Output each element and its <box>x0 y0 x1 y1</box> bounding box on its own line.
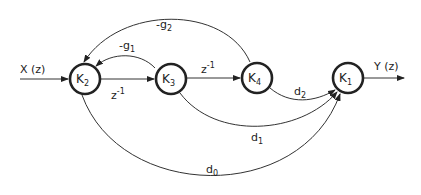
edge-k3-k4: z-1 <box>187 61 240 78</box>
output-label: Y (z) <box>373 60 399 73</box>
output-edge: Y (z) <box>364 60 404 78</box>
edge-k4-k1: d2 <box>270 85 335 100</box>
node-k1: K1 <box>333 63 363 93</box>
node-k4: K4 <box>242 63 272 93</box>
input-edge: X (z) <box>20 63 68 79</box>
edge-label-g2: -g2 <box>156 18 172 33</box>
edge-k3-k1: d1 <box>180 92 337 146</box>
signal-flow-diagram: X (z) Y (z) z-1 z-1 -g1 -g2 d2 d1 d0 <box>0 0 421 195</box>
node-k3: K3 <box>156 64 186 94</box>
edge-k2-k3: z-1 <box>101 79 154 102</box>
edge-label-d2: d2 <box>294 85 306 100</box>
edge-label-k3-k4: z-1 <box>201 61 215 76</box>
edge-label-d0: d0 <box>206 163 218 178</box>
edge-label-g1: -g1 <box>119 39 135 54</box>
edge-label-d1: d1 <box>251 131 263 146</box>
edge-label-k2-k3: z-1 <box>111 87 125 102</box>
node-k2: K2 <box>70 64 100 94</box>
edge-k4-k2-feedback: -g2 <box>84 18 250 62</box>
edge-k3-k2-feedback: -g1 <box>96 39 155 68</box>
input-label: X (z) <box>20 63 45 76</box>
edge-k2-k1: d0 <box>82 94 340 178</box>
